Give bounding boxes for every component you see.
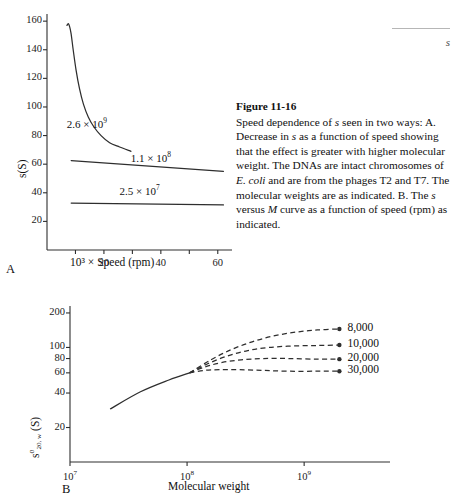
header-text: s xyxy=(392,36,454,48)
panel-a-ytick-20: 20 xyxy=(9,214,42,225)
panel-b-end-marker-0 xyxy=(337,327,341,331)
panel-b-xtick-1: 108 xyxy=(171,469,203,482)
panel-b-end-label-8000: 8,000 xyxy=(347,321,373,333)
panel-b-end-label-10000: 10,000 xyxy=(347,337,379,349)
panel-b-ytick-80: 80 xyxy=(32,352,65,363)
panel-b-end-marker-1 xyxy=(337,343,341,347)
panel-a-series-2 xyxy=(71,203,223,205)
panel-b-end-marker-3 xyxy=(337,369,341,373)
panel-a-annotation-1: 1.1 × 108 xyxy=(131,150,171,164)
running-header: s xyxy=(392,28,454,48)
panel-b-ytick-60: 60 xyxy=(32,366,65,377)
panel-a-ytick-40: 40 xyxy=(9,186,42,197)
panel-a-ytick-100: 100 xyxy=(9,100,42,111)
figure-caption: Figure 11-16 Speed dependence of s seen … xyxy=(236,99,450,231)
panel-b-series-30000 xyxy=(190,370,340,373)
caption-title: Figure 11-16 xyxy=(236,99,450,114)
panel-b-ytick-100: 100 xyxy=(32,340,65,351)
panel-a-xtick-20: 20 xyxy=(90,257,118,268)
panel-a-ytick-60: 60 xyxy=(9,157,42,168)
header-rule xyxy=(392,28,450,29)
panel-a-ytick-120: 120 xyxy=(9,71,42,82)
panel-a-chart: 10³ × Speed (rpm) s(S) A 204060801001201… xyxy=(0,0,236,282)
panel-b-chart: Molecular weight so20, w (S) B 204060801… xyxy=(0,296,454,504)
panel-a-series-0 xyxy=(67,24,131,152)
panel-b-ytick-40: 40 xyxy=(32,386,65,397)
panel-b-common-branch xyxy=(110,373,189,409)
panel-b-ytick-200: 200 xyxy=(32,306,65,317)
panel-a-xtick-60: 60 xyxy=(204,257,232,268)
panel-a-annotation-0: 2.6 × 109 xyxy=(67,116,107,130)
panel-a-letter: A xyxy=(6,262,15,277)
panel-b-xtick-0: 107 xyxy=(54,469,86,482)
panel-a-ytick-80: 80 xyxy=(9,129,42,140)
panel-b-letter: B xyxy=(62,482,70,497)
panel-a-ytick-140: 140 xyxy=(9,43,42,54)
panel-a-annotation-2: 2.5 × 107 xyxy=(119,183,159,197)
panel-b-end-label-30000: 30,000 xyxy=(347,363,379,375)
panel-b-end-marker-2 xyxy=(337,357,341,361)
panel-b-xtick-2: 109 xyxy=(288,469,320,482)
panel-b-ytick-20: 20 xyxy=(32,421,65,432)
caption-body: Speed dependence of s seen in two ways: … xyxy=(236,115,450,232)
panel-b-end-label-20000: 20,000 xyxy=(347,351,379,363)
figure-page: s 10³ × Speed (rpm) s(S) A 2040608010012… xyxy=(0,0,454,504)
panel-b-series-8000 xyxy=(190,329,340,373)
panel-b-x-axis-title: Molecular weight xyxy=(168,480,249,492)
panel-a-xtick-40: 40 xyxy=(147,257,175,268)
panel-a-ytick-160: 160 xyxy=(9,14,42,25)
